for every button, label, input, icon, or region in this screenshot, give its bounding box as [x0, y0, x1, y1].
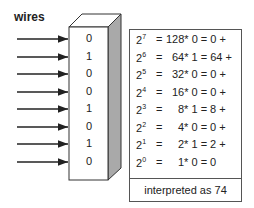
bit-5: 0 [69, 67, 109, 79]
bit-2: 0 [69, 120, 109, 132]
power-row: 27=128* 0 = 0 + [136, 33, 146, 46]
table-divider [130, 178, 241, 179]
power-row: 25=32* 0 = 0 + [136, 68, 146, 81]
power-row: 21=2* 1 = 2 + [136, 138, 146, 151]
wire-arrows [17, 39, 68, 162]
power-row: 23=8* 1 = 8 + [136, 103, 146, 116]
power-row: 26=64* 1 = 64 + [136, 51, 146, 64]
bit-6: 1 [69, 50, 109, 62]
power-row: 22=4* 0 = 0 + [136, 121, 146, 134]
bit-4: 0 [69, 85, 109, 97]
bit-1: 1 [69, 137, 109, 149]
bit-3: 1 [69, 102, 109, 114]
power-row: 24=16* 0 = 0 + [136, 86, 146, 99]
result-label: interpreted as 74 [130, 184, 241, 196]
register-side-face [108, 14, 121, 180]
bit-0: 0 [69, 155, 109, 167]
power-row: 20=1* 0 = 0 [136, 156, 146, 169]
bit-7: 0 [69, 32, 109, 44]
interpretation-table: 27=128* 0 = 0 + 26=64* 1 = 64 + 25=32* 0… [129, 29, 242, 202]
